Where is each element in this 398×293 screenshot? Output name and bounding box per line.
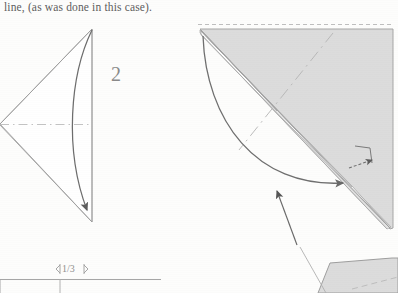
right-figure — [198, 25, 393, 246]
dimension-tick-left-icon — [56, 264, 60, 274]
bottom-right-paper — [318, 258, 398, 293]
left-triangle-paper — [0, 29, 92, 222]
scanned-page: line, (as was done in this case). — [0, 0, 398, 293]
dimension-tick-right-icon — [84, 264, 88, 274]
bottom-right-partial-figure — [300, 247, 398, 293]
right-pointer-arrow — [277, 191, 297, 245]
dimension-label: 1/3 — [62, 263, 75, 274]
left-figure — [0, 29, 93, 222]
step-number: 2 — [111, 63, 121, 86]
bottom-left-measure — [0, 264, 161, 293]
bottom-right-outer-edge — [300, 247, 326, 293]
diagram-canvas — [0, 0, 398, 293]
